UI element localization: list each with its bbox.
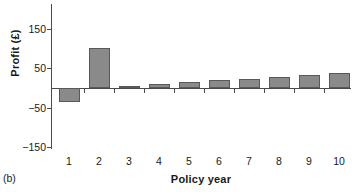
x-axis-title: Policy year — [51, 173, 351, 185]
x-tick-mark — [234, 89, 235, 93]
bar — [179, 82, 200, 88]
x-tick-label: 9 — [294, 155, 324, 167]
x-tick-mark — [264, 89, 265, 93]
y-axis-line — [51, 4, 52, 149]
x-tick-mark — [144, 89, 145, 93]
y-axis-tick-labels: 15050−50−150 — [12, 0, 46, 192]
x-tick-label: 4 — [144, 155, 174, 167]
y-tick-label: −150 — [12, 142, 46, 153]
x-tick-label: 7 — [234, 155, 264, 167]
x-tick-label: 10 — [324, 155, 354, 167]
y-tick-mark — [47, 108, 51, 109]
x-tick-mark — [114, 89, 115, 93]
x-tick-label: 5 — [174, 155, 204, 167]
bar-chart-figure: Profit (£) 15050−50−150 12345678910 Poli… — [0, 0, 359, 192]
x-tick-mark — [294, 89, 295, 93]
x-tick-mark — [324, 89, 325, 93]
zero-baseline — [51, 88, 351, 89]
bar — [269, 77, 290, 88]
x-tick-label: 8 — [264, 155, 294, 167]
bar — [59, 88, 80, 102]
y-tick-label: 150 — [12, 24, 46, 35]
bar — [89, 48, 110, 88]
x-tick-mark — [174, 89, 175, 93]
bar — [329, 73, 350, 88]
x-tick-label: 2 — [84, 155, 114, 167]
bar — [239, 79, 260, 88]
bar — [119, 86, 140, 88]
panel-caption: (b) — [3, 172, 16, 184]
x-tick-mark — [84, 89, 85, 93]
x-tick-label: 1 — [54, 155, 84, 167]
y-tick-mark — [47, 147, 51, 148]
x-axis-tick-labels: 12345678910 — [51, 155, 351, 169]
y-tick-label: 50 — [12, 63, 46, 74]
plot-area — [51, 4, 351, 152]
y-tick-mark — [47, 68, 51, 69]
bar — [209, 80, 230, 88]
x-tick-label: 6 — [204, 155, 234, 167]
y-tick-mark — [47, 29, 51, 30]
x-tick-mark — [204, 89, 205, 93]
bar — [149, 84, 170, 88]
bar — [299, 75, 320, 88]
y-tick-label: −50 — [12, 103, 46, 114]
x-tick-label: 3 — [114, 155, 144, 167]
